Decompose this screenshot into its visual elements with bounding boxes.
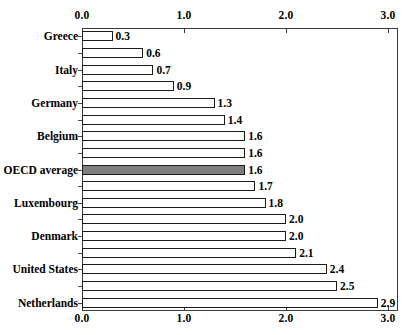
bar-value-label: 1.6 [248, 165, 262, 176]
bar-value-label: 0.7 [156, 65, 170, 76]
bar[interactable] [82, 298, 378, 308]
bar-highlighted[interactable] [82, 165, 245, 175]
category-label: Belgium [37, 130, 78, 142]
category-label: Denmark [31, 230, 78, 242]
bar-value-label: 1.3 [218, 98, 232, 109]
bar-row[interactable]: 1.8 [82, 198, 398, 208]
bar[interactable] [82, 281, 337, 291]
bar-value-label: 2.4 [330, 264, 344, 275]
bar-row[interactable]: 1.6 [82, 165, 398, 175]
bar-row[interactable]: 1.6 [82, 131, 398, 141]
x-axis-tick-label: 3.0 [381, 311, 396, 325]
category-label: United States [13, 263, 79, 275]
category-label: Germany [31, 97, 78, 109]
bar-row[interactable]: 0.6 [82, 48, 398, 58]
category-label: Greece [44, 30, 78, 42]
horizontal-bar-chart: 0.01.02.03.0 GreeceItalyGermanyBelgiumOE… [0, 0, 418, 335]
bar[interactable] [82, 198, 266, 208]
bar-row[interactable]: 2.4 [82, 264, 398, 274]
bar-row[interactable]: 1.7 [82, 181, 398, 191]
bar-value-label: 0.3 [116, 31, 130, 42]
category-label: Netherlands [18, 297, 78, 309]
bar-row[interactable]: 0.3 [82, 31, 398, 41]
bar-value-label: 2.0 [289, 231, 303, 242]
x-axis-tick-label: 0.0 [75, 8, 90, 22]
bar-row[interactable]: 2.1 [82, 248, 398, 258]
bar-value-label: 1.6 [248, 131, 262, 142]
bar[interactable] [82, 131, 245, 141]
bar-value-label: 2.1 [299, 248, 313, 259]
bar-value-label: 1.7 [258, 181, 272, 192]
bar-value-label: 2.9 [381, 298, 395, 309]
bar[interactable] [82, 181, 255, 191]
x-axis-tick-label: 1.0 [177, 8, 192, 22]
bar-row[interactable]: 2.9 [82, 298, 398, 308]
bar[interactable] [82, 231, 286, 241]
bar[interactable] [82, 81, 174, 91]
bar-value-label: 2.5 [340, 281, 354, 292]
bar-value-label: 1.4 [228, 115, 242, 126]
bar[interactable] [82, 115, 225, 125]
category-label: Italy [55, 64, 78, 76]
bar-row[interactable]: 1.6 [82, 148, 398, 158]
bar[interactable] [82, 48, 143, 58]
bar-row[interactable]: 2.0 [82, 231, 398, 241]
bar-row[interactable]: 1.3 [82, 98, 398, 108]
x-axis-tick-label: 2.0 [279, 311, 294, 325]
bar[interactable] [82, 248, 296, 258]
bar-value-label: 1.6 [248, 148, 262, 159]
x-axis-tick-label: 3.0 [381, 8, 396, 22]
bar-row[interactable]: 2.5 [82, 281, 398, 291]
bar[interactable] [82, 31, 113, 41]
bar-row[interactable]: 0.7 [82, 65, 398, 75]
bar-value-label: 1.8 [269, 198, 283, 209]
bar-row[interactable]: 2.0 [82, 214, 398, 224]
x-axis-tick-labels-bottom: 0.01.02.03.0 [0, 311, 418, 327]
bars-layer: 0.30.60.70.91.31.41.61.61.61.71.82.02.02… [82, 28, 398, 311]
bar-row[interactable]: 1.4 [82, 115, 398, 125]
bar[interactable] [82, 148, 245, 158]
category-label: OECD average [4, 164, 78, 176]
bar[interactable] [82, 214, 286, 224]
x-axis-tick-labels-top: 0.01.02.03.0 [0, 8, 418, 24]
bar[interactable] [82, 98, 215, 108]
category-label: Luxembourg [14, 197, 78, 209]
x-axis-tick-label: 0.0 [75, 311, 90, 325]
bar[interactable] [82, 264, 327, 274]
bar[interactable] [82, 65, 153, 75]
x-axis-tick-label: 2.0 [279, 8, 294, 22]
bar-row[interactable]: 0.9 [82, 81, 398, 91]
bar-value-label: 2.0 [289, 214, 303, 225]
bar-value-label: 0.9 [177, 81, 191, 92]
x-axis-tick-label: 1.0 [177, 311, 192, 325]
bar-value-label: 0.6 [146, 48, 160, 59]
